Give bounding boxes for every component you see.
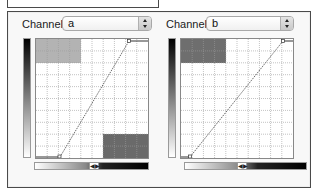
top-box bbox=[7, 0, 159, 8]
stepper-arrows-icon[interactable] bbox=[138, 17, 151, 30]
slider-knob-icon[interactable]: ◀▶ bbox=[89, 162, 99, 170]
channel-label-a: Channel: bbox=[22, 18, 66, 30]
grid-and-curve bbox=[181, 39, 293, 158]
slider-knob-icon[interactable]: ◀▶ bbox=[237, 162, 247, 170]
stepper-arrows-icon[interactable] bbox=[280, 17, 293, 30]
vertical-gradient-bar-a bbox=[23, 38, 31, 158]
channel-select-a[interactable]: a bbox=[62, 16, 152, 31]
horizontal-gradient-slider-a[interactable]: ◀▶ bbox=[34, 162, 149, 170]
horizontal-gradient-slider-b[interactable]: ◀▶ bbox=[184, 162, 307, 170]
curve-graph-a[interactable] bbox=[35, 38, 149, 159]
curve-graph-b[interactable] bbox=[180, 38, 294, 159]
vertical-gradient-bar-b bbox=[168, 38, 176, 158]
curve-point-start bbox=[189, 155, 192, 158]
channel-label-b: Channel: bbox=[166, 18, 210, 30]
channel-select-b[interactable]: b bbox=[206, 16, 294, 31]
channel-select-value: a bbox=[68, 17, 74, 30]
channel-select-value: b bbox=[212, 17, 218, 30]
grid-and-curve bbox=[36, 39, 148, 158]
curve-point-end bbox=[128, 40, 131, 43]
curve-point-start bbox=[58, 155, 61, 158]
curve-point-end bbox=[282, 40, 285, 43]
